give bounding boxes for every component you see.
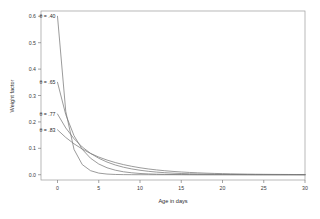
- series-label: θ = .77: [39, 111, 55, 117]
- x-tick-label: 30: [302, 185, 308, 191]
- x-axis-title: Age in days: [158, 198, 187, 204]
- chart-background: [0, 0, 320, 219]
- x-tick-label: 5: [97, 185, 100, 191]
- y-tick-label: 0.5: [29, 40, 36, 46]
- series-label: θ = .65: [39, 79, 55, 85]
- series-label: θ = .83: [39, 127, 55, 133]
- chart-canvas: 051015202530 0.00.10.20.30.40.50.6 θ = .…: [0, 0, 320, 219]
- x-tick-label: 25: [261, 185, 267, 191]
- y-tick-label: 0.1: [29, 145, 36, 151]
- series-label: θ = .40: [39, 13, 55, 19]
- x-tick-label: 0: [56, 185, 59, 191]
- x-tick-label: 20: [220, 185, 226, 191]
- y-tick-label: 0.0: [29, 172, 36, 178]
- x-tick-label: 10: [137, 185, 143, 191]
- weight-factor-chart: 051015202530 0.00.10.20.30.40.50.6 θ = .…: [0, 0, 320, 219]
- y-tick-label: 0.4: [29, 66, 36, 72]
- x-tick-label: 15: [178, 185, 184, 191]
- y-tick-label: 0.3: [29, 93, 36, 99]
- y-tick-label: 0.2: [29, 119, 36, 125]
- y-tick-label: 0.6: [29, 13, 36, 19]
- y-axis-title: Weight factor: [9, 79, 15, 112]
